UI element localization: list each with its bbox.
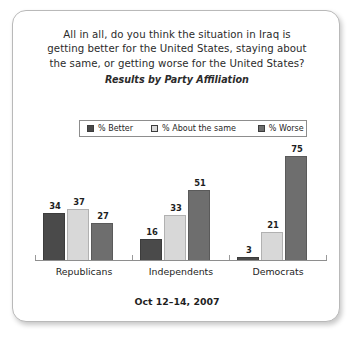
bar-value-democrats-worse: 75 — [282, 144, 312, 154]
bar-value-republicans-about-the-same: 37 — [64, 197, 94, 207]
bar-value-democrats-about-the-same: 21 — [258, 220, 288, 230]
bar-value-republicans-worse: 27 — [88, 211, 118, 221]
bar-republicans-worse: 27 — [91, 223, 113, 261]
bar-independents-worse: 51 — [188, 190, 210, 261]
group-label-republicans: Republicans — [29, 266, 139, 277]
legend-item-better: % Better — [87, 124, 133, 133]
legend-label-about-the-same: % About the same — [162, 124, 236, 133]
legend-swatch-about-the-same — [151, 125, 158, 132]
chart-legend: % Better % About the same % Worse — [79, 120, 307, 137]
bar-group-republicans: 34 37 27 — [43, 149, 129, 261]
axis-tick-1 — [35, 255, 36, 260]
chart-title-line-3: the same, or getting worse for the Unite… — [27, 57, 327, 71]
bar-value-independents-about-the-same: 33 — [161, 203, 191, 213]
bar-independents-better: 16 — [140, 239, 162, 261]
axis-tick-4 — [326, 255, 327, 260]
bar-value-independents-worse: 51 — [185, 178, 215, 188]
axis-tick-3 — [229, 255, 230, 260]
chart-axis-baseline — [35, 260, 327, 261]
chart-plot-area: 34 37 27 16 33 51 3 21 — [35, 149, 323, 261]
chart-title-line-2: getting better for the United States, st… — [27, 42, 327, 56]
bar-value-democrats-better: 3 — [234, 245, 264, 255]
legend-item-worse: % Worse — [258, 124, 304, 133]
chart-title-line-1: All in all, do you think the situation i… — [27, 28, 327, 42]
legend-swatch-worse — [258, 125, 265, 132]
legend-label-worse: % Worse — [269, 124, 304, 133]
legend-item-about-the-same: % About the same — [151, 124, 236, 133]
group-label-independents: Independents — [126, 266, 236, 277]
axis-tick-2 — [132, 255, 133, 260]
chart-title-block: All in all, do you think the situation i… — [27, 28, 327, 87]
bar-democrats-worse: 75 — [285, 156, 307, 261]
group-label-democrats: Democrats — [223, 266, 333, 277]
chart-footer-date: Oct 12–14, 2007 — [13, 296, 341, 307]
bar-independents-about-the-same: 33 — [164, 215, 186, 261]
bar-value-independents-better: 16 — [137, 227, 167, 237]
bar-democrats-about-the-same: 21 — [261, 232, 283, 261]
bar-republicans-better: 34 — [43, 213, 65, 261]
chart-card: All in all, do you think the situation i… — [12, 10, 340, 322]
bar-republicans-about-the-same: 37 — [67, 209, 89, 261]
legend-label-better: % Better — [98, 124, 133, 133]
bar-group-democrats: 3 21 75 — [237, 149, 323, 261]
chart-subtitle: Results by Party Affiliation — [27, 72, 327, 87]
bar-group-independents: 16 33 51 — [140, 149, 226, 261]
legend-swatch-better — [87, 125, 94, 132]
